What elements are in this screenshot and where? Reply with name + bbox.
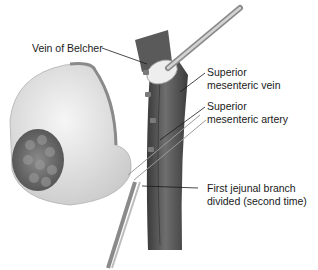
label-line: Superior [207,100,288,113]
mesenteric-vessel [147,60,188,250]
label-vein-of-belcher: Vein of Belcher [32,42,103,55]
label-line: Vein of Belcher [32,42,103,55]
label-line: mesenteric artery [207,113,288,126]
label-superior-mesenteric-vein: Superior mesenteric vein [207,66,281,91]
surgical-illustration [0,0,318,270]
label-superior-mesenteric-artery: Superior mesenteric artery [207,100,288,125]
label-line: mesenteric vein [207,79,281,92]
label-line: First jejunal branch [207,182,307,195]
pancreas-tissue [10,64,131,205]
label-line: Superior [207,66,281,79]
label-line: divided (second time) [207,195,307,208]
label-first-jejunal-branch: First jejunal branch divided (second tim… [207,182,307,207]
